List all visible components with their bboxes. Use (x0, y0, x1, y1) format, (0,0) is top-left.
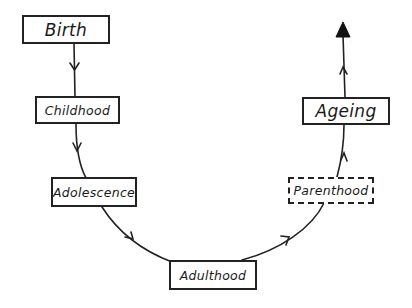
stage-ageing: Ageing (302, 97, 390, 125)
edge-parenthood-ageing (337, 125, 344, 177)
edge-adolescence-adulthood (102, 207, 172, 262)
stage-adulthood: Adulthood (169, 260, 257, 290)
stage-label: Adolescence (53, 185, 135, 200)
stage-adolescence: Adolescence (51, 177, 137, 207)
stage-label: Birth (45, 20, 87, 40)
end-arrow-icon (336, 22, 350, 37)
edge-adulthood-parenthood (242, 203, 324, 260)
stage-label: Parenthood (293, 183, 368, 198)
stage-label: Childhood (45, 103, 110, 118)
stage-label: Adulthood (180, 268, 247, 283)
stage-childhood: Childhood (35, 96, 120, 124)
stage-label: Ageing (316, 101, 377, 121)
stage-parenthood: Parenthood (288, 177, 374, 204)
stage-birth: Birth (22, 15, 110, 44)
